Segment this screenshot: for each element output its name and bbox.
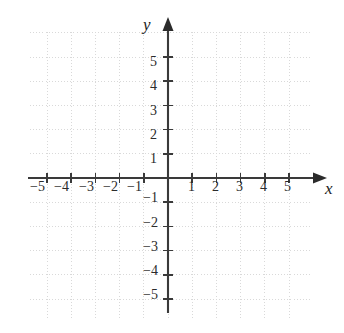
y-tick-label: 1 bbox=[150, 152, 157, 166]
x-tick-label: 2 bbox=[212, 180, 219, 194]
y-tick-label: 3 bbox=[150, 104, 157, 118]
axes-layer bbox=[0, 0, 344, 333]
x-tick-label: 3 bbox=[236, 180, 243, 194]
y-tick-label: 5 bbox=[150, 55, 157, 69]
y-tick-label: −5 bbox=[143, 288, 158, 302]
x-axis-label: x bbox=[325, 180, 333, 197]
x-tick-label: −3 bbox=[79, 180, 94, 194]
x-tick-label: −2 bbox=[103, 180, 118, 194]
y-tick-label: −1 bbox=[143, 191, 158, 205]
y-tick-label: −4 bbox=[143, 264, 158, 278]
y-axis-label: y bbox=[143, 16, 151, 33]
x-tick-label: −1 bbox=[127, 180, 142, 194]
y-tick-label: −2 bbox=[143, 216, 158, 230]
x-tick-label: 4 bbox=[260, 180, 267, 194]
x-tick-label: −5 bbox=[30, 180, 45, 194]
coordinate-plane-figure: −5−4−3−2−112345 54321−1−2−3−4−5 y x bbox=[0, 0, 344, 333]
y-tick-label: −3 bbox=[143, 240, 158, 254]
y-axis-arrowhead-icon bbox=[163, 17, 174, 31]
y-tick-label: 4 bbox=[150, 79, 157, 93]
x-tick-label: 5 bbox=[284, 180, 291, 194]
x-tick-label: −4 bbox=[54, 180, 69, 194]
y-tick-label: 2 bbox=[150, 128, 157, 142]
x-tick-label: 1 bbox=[188, 180, 195, 194]
